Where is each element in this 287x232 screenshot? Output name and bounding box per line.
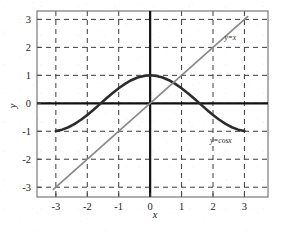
y-axis-label: y (7, 103, 18, 109)
cosine-and-identity-line-chart: -3-2-10123 3210-1-2-3 y=xy=cosx x y (0, 0, 287, 232)
chart-figure: -3-2-10123 3210-1-2-3 y=xy=cosx x y (0, 0, 287, 232)
y-tick-label: -1 (22, 126, 31, 137)
y-tick-label: 1 (26, 70, 31, 81)
y-tick-label: 2 (26, 42, 31, 53)
y-tick-label: 0 (26, 98, 31, 109)
x-tick-label: 2 (210, 201, 215, 212)
y-tick-label: -2 (22, 154, 31, 165)
y-tick-label: 3 (26, 14, 31, 25)
y-tick-label: -3 (22, 182, 31, 193)
x-axis-label: x (152, 209, 158, 220)
x-tick-label: -1 (114, 201, 123, 212)
x-tick-label: -3 (51, 201, 60, 212)
line-label-cosine: y=cosx (209, 136, 232, 145)
line-label-identity: y=x (223, 33, 236, 42)
x-tick-label: 3 (242, 201, 247, 212)
x-tick-label: -2 (83, 201, 92, 212)
x-tick-label: 1 (179, 201, 184, 212)
